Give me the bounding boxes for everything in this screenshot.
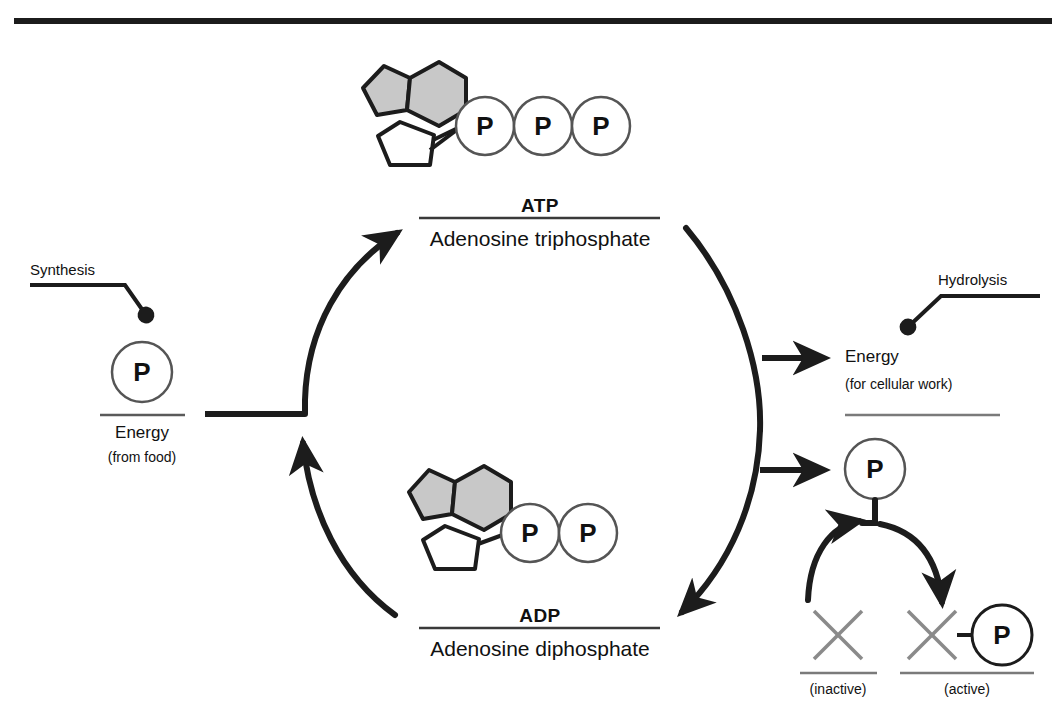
adp-phosphate-label-2: P bbox=[579, 518, 596, 549]
atp-molecule-structure bbox=[363, 62, 630, 165]
atp-ribose-pentagon bbox=[378, 122, 434, 165]
adp-ribose-pentagon bbox=[423, 526, 479, 569]
hydrolysis-callout-label: Hydrolysis bbox=[938, 272, 1007, 287]
adp-abbrev-label: ADP bbox=[519, 606, 560, 625]
atp-phosphate-label-1: P bbox=[476, 111, 493, 142]
hydrolysis-callout-leader bbox=[908, 296, 1040, 327]
right-phosphate-label: P bbox=[866, 454, 883, 485]
hydrolysis-arc-right bbox=[686, 228, 760, 430]
recycle-arc-lower-left bbox=[303, 443, 395, 615]
synthesis-arc-upper bbox=[305, 233, 397, 414]
right-energy-use-label: (for cellular work) bbox=[845, 377, 952, 391]
inactive-molecule-x-icon bbox=[814, 611, 862, 659]
activation-arc-from-x bbox=[808, 521, 859, 600]
atp-phosphate-label-2: P bbox=[534, 111, 551, 142]
atp-abbrev-label: ATP bbox=[521, 196, 559, 215]
activation-arc-to-xp bbox=[880, 524, 942, 602]
active-state-label: (active) bbox=[944, 682, 990, 696]
active-molecule-x-icon bbox=[908, 611, 956, 659]
atp-phosphate-label-3: P bbox=[592, 111, 609, 142]
adp-adenine-pentagon bbox=[409, 470, 455, 519]
inactive-state-label: (inactive) bbox=[810, 682, 867, 696]
adp-adenine-hexagon bbox=[452, 466, 511, 530]
right-energy-label: Energy bbox=[845, 348, 899, 365]
adp-phosphate-label-1: P bbox=[521, 518, 538, 549]
left-energy-label: Energy bbox=[115, 424, 169, 441]
atp-adenine-pentagon bbox=[363, 66, 410, 115]
phosphorylation-stem bbox=[862, 500, 875, 523]
left-phosphate-label: P bbox=[133, 357, 150, 388]
synthesis-callout-label: Synthesis bbox=[30, 262, 95, 277]
atp-full-name-label: Adenosine triphosphate bbox=[430, 228, 651, 249]
adp-full-name-label: Adenosine diphosphate bbox=[430, 638, 650, 659]
synthesis-callout-leader bbox=[30, 285, 146, 315]
atp-cycle-figure: P P P ATP Adenosine triphosphate P P ADP… bbox=[0, 0, 1063, 722]
hydrolysis-arc-right-lower bbox=[682, 430, 760, 612]
left-energy-source-label: (from food) bbox=[108, 450, 176, 464]
active-phosphate-label: P bbox=[993, 620, 1010, 651]
